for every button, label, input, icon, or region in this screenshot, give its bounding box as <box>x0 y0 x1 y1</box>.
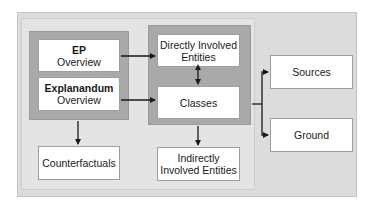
connector-arrows <box>0 0 374 209</box>
arrow-to-ground <box>262 104 268 135</box>
arrow-to-sources <box>262 72 268 104</box>
